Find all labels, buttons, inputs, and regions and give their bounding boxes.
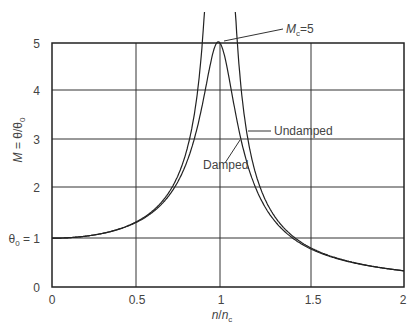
x-tick-0-5: 0.5 bbox=[129, 293, 146, 307]
damped-curve bbox=[52, 42, 404, 271]
y-tick-4: 4 bbox=[33, 84, 40, 98]
chart: 5 4 3 2 θ0 = 1 0 0 0.5 1 1.5 2 n/nc M = … bbox=[0, 0, 416, 331]
undamped-curve-right bbox=[235, 12, 404, 271]
x-tick-0: 0 bbox=[49, 293, 56, 307]
x-axis-label: n/nc bbox=[212, 308, 233, 324]
undamped-curve-left bbox=[52, 12, 205, 238]
curves bbox=[52, 12, 404, 271]
x-tick-2: 2 bbox=[400, 293, 407, 307]
x-tick-1: 1 bbox=[218, 293, 225, 307]
y-tick-3: 3 bbox=[33, 133, 40, 147]
x-tick-1-5: 1.5 bbox=[305, 293, 322, 307]
y-tick-2: 2 bbox=[33, 181, 40, 195]
y-axis-label: M = θ/θ0 bbox=[11, 117, 27, 162]
y-tick-1: θ0 = 1 bbox=[9, 232, 41, 248]
mc-annotation: Mc=5 bbox=[286, 22, 314, 38]
undamped-label: Undamped bbox=[274, 124, 333, 138]
damped-label: Damped bbox=[203, 158, 248, 172]
y-tick-0: 0 bbox=[33, 281, 40, 295]
y-tick-5: 5 bbox=[33, 37, 40, 51]
